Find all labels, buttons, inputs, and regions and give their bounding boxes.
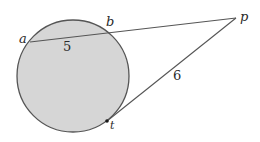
point-t-marker xyxy=(105,119,109,123)
segment-pt-length-label: 6 xyxy=(173,68,181,83)
point-a-label: a xyxy=(19,31,27,46)
point-p-label: p xyxy=(240,9,249,24)
point-t-label: t xyxy=(110,119,115,132)
point-b-label: b xyxy=(106,14,114,29)
segment-ab-length-label: 5 xyxy=(63,39,71,54)
secant-tangent-diagram: a b p t 5 6 xyxy=(0,0,260,142)
